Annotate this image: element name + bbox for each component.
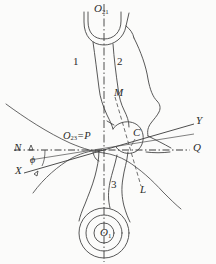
link-3-left-edge — [79, 150, 99, 221]
link-2-left-edge — [93, 42, 113, 129]
label-pivot-top: O21 — [94, 3, 109, 15]
tick-near-N — [29, 145, 33, 150]
label-axis-x: X — [15, 165, 22, 176]
label-link-2: 2 — [117, 56, 123, 67]
link-2-yoke-outline — [88, 12, 121, 39]
diagram-canvas — [0, 0, 216, 264]
label-axis-y: Y — [196, 115, 202, 126]
label-point-l: L — [140, 184, 146, 195]
link-2-body — [84, 12, 160, 153]
link-1-right-lower-tail — [146, 152, 170, 153]
label-instant-centre: O23=P — [63, 131, 91, 142]
leader-c — [131, 139, 135, 146]
link-2-yoke-shell — [84, 12, 129, 45]
label-link-1: 1 — [73, 56, 79, 67]
arc-lower-left-branch — [33, 150, 104, 193]
link-1-right-tail — [148, 136, 171, 148]
link-2-yoke-rim — [126, 26, 134, 38]
label-axis-q: Q — [193, 142, 201, 153]
label-link-3: 3 — [111, 179, 117, 190]
kinematic-diagram: O21 1 2 M O23=P C Y N Q ϕ X 3 L O1 — [0, 0, 216, 264]
label-axis-n: N — [14, 142, 21, 153]
link-2-right-edge — [134, 38, 160, 136]
tick-near-X — [34, 171, 38, 176]
normal-line-MCL — [115, 97, 141, 186]
tangent-line-XY — [24, 124, 194, 173]
label-point-m: M — [114, 87, 123, 98]
link-3-body — [79, 150, 130, 258]
label-pivot-bottom: O1 — [100, 227, 111, 239]
label-angle-phi: ϕ — [30, 155, 35, 165]
label-point-c: C — [133, 127, 140, 138]
